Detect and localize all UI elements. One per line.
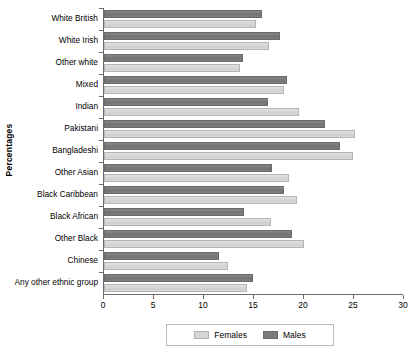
category-label: Pakistani bbox=[14, 124, 98, 134]
legend-entry: Males bbox=[263, 330, 306, 340]
y-axis-tick bbox=[99, 96, 103, 97]
y-axis-tick bbox=[99, 162, 103, 163]
category-label: Mixed bbox=[14, 80, 98, 90]
chart-legend: FemalesMales bbox=[166, 324, 334, 346]
category-label: White British bbox=[14, 14, 98, 24]
bar-males bbox=[104, 32, 280, 40]
legend-swatch-males bbox=[263, 331, 278, 339]
y-axis-tick bbox=[99, 206, 103, 207]
bar-females bbox=[104, 240, 304, 248]
bar-females bbox=[104, 20, 256, 28]
x-axis-tick bbox=[153, 295, 154, 299]
bar-males bbox=[104, 98, 268, 106]
y-axis-tick bbox=[99, 30, 103, 31]
y-axis-tick bbox=[99, 250, 103, 251]
category-label: White Irish bbox=[14, 36, 98, 46]
y-axis-title-text: Percentages bbox=[4, 124, 14, 177]
bar-females bbox=[104, 86, 284, 94]
x-axis-tick-label: 10 bbox=[188, 300, 218, 310]
y-axis-tick bbox=[99, 52, 103, 53]
y-axis-tick bbox=[99, 74, 103, 75]
y-axis-tick bbox=[99, 8, 103, 9]
bar-females bbox=[104, 174, 289, 182]
y-axis-tick bbox=[99, 228, 103, 229]
x-axis-tick-label: 15 bbox=[238, 300, 268, 310]
x-axis-tick-label: 25 bbox=[338, 300, 368, 310]
category-axis-labels: White BritishWhite IrishOther whiteMixed… bbox=[18, 8, 102, 294]
category-label: Other Black bbox=[14, 234, 98, 244]
bar-males bbox=[104, 252, 219, 260]
x-axis-tick-label: 20 bbox=[288, 300, 318, 310]
chart-page: Percentages White BritishWhite IrishOthe… bbox=[0, 0, 418, 353]
bar-males bbox=[104, 10, 262, 18]
bar-females bbox=[104, 262, 228, 270]
plot-area: 051015202530 bbox=[103, 8, 403, 294]
bar-females bbox=[104, 64, 240, 72]
x-axis-tick bbox=[103, 295, 104, 299]
legend-label: Females bbox=[214, 330, 247, 340]
x-axis-tick-label: 0 bbox=[88, 300, 118, 310]
bar-females bbox=[104, 130, 355, 138]
y-axis-tick bbox=[99, 272, 103, 273]
bar-females bbox=[104, 218, 271, 226]
x-axis-tick bbox=[353, 295, 354, 299]
category-label: Bangladeshi bbox=[14, 146, 98, 156]
bar-males bbox=[104, 164, 272, 172]
bar-females bbox=[104, 196, 297, 204]
category-label: Black Caribbean bbox=[14, 190, 98, 200]
bar-males bbox=[104, 208, 244, 216]
category-label: Indian bbox=[14, 102, 98, 112]
x-axis-tick-label: 30 bbox=[388, 300, 418, 310]
bar-males bbox=[104, 186, 284, 194]
bar-males bbox=[104, 54, 243, 62]
legend-entry: Females bbox=[194, 330, 247, 340]
category-label: Any other ethnic group bbox=[14, 278, 98, 288]
bar-males bbox=[104, 120, 325, 128]
category-label: Black African bbox=[14, 212, 98, 222]
category-label: Chinese bbox=[14, 256, 98, 266]
x-axis-tick bbox=[203, 295, 204, 299]
x-axis-tick bbox=[253, 295, 254, 299]
bar-males bbox=[104, 76, 287, 84]
bar-males bbox=[104, 274, 253, 282]
legend-swatch-females bbox=[194, 331, 209, 339]
x-axis-tick bbox=[403, 295, 404, 299]
bar-females bbox=[104, 152, 353, 160]
bar-females bbox=[104, 284, 247, 292]
y-axis-tick bbox=[99, 140, 103, 141]
y-axis-tick bbox=[99, 184, 103, 185]
y-axis-tick bbox=[99, 118, 103, 119]
bar-males bbox=[104, 142, 340, 150]
x-axis-tick-label: 5 bbox=[138, 300, 168, 310]
category-label: Other white bbox=[14, 58, 98, 68]
bar-males bbox=[104, 230, 292, 238]
x-axis-tick bbox=[303, 295, 304, 299]
category-label: Other Asian bbox=[14, 168, 98, 178]
legend-label: Males bbox=[283, 330, 306, 340]
bar-females bbox=[104, 108, 299, 116]
bar-females bbox=[104, 42, 269, 50]
